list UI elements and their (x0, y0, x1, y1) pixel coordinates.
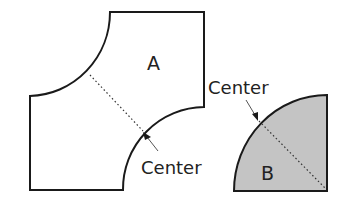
center-a-arrow-icon (143, 132, 151, 140)
center-a-pointer-line (147, 137, 158, 151)
center-b-arrow-icon (252, 112, 258, 121)
shape-a-label: A (147, 52, 160, 74)
center-b-pointer-line (246, 100, 255, 115)
center-b-label: Center (208, 77, 269, 98)
center-a-label: Center (141, 157, 202, 178)
shape-b (234, 95, 327, 191)
diagram-canvas: A B Center Center (0, 0, 354, 205)
shape-b-label: B (261, 162, 274, 184)
